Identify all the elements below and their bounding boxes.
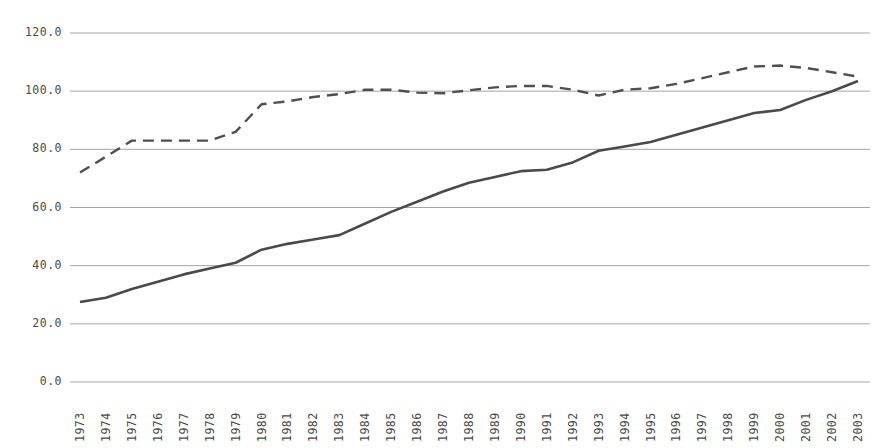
series-line-series-dashed [80, 66, 858, 173]
series-line-series-solid [80, 81, 858, 302]
x-axis-tick-label: 1991 [542, 412, 554, 442]
x-axis-tick-label: 1995 [646, 412, 658, 442]
x-axis-tick-label: 1985 [386, 412, 398, 442]
x-axis-tick-label: 2003 [853, 412, 865, 442]
x-axis-tick-label: 1983 [334, 412, 346, 442]
x-axis-tick-label: 1974 [101, 412, 113, 442]
x-axis-tick-label: 1973 [75, 412, 87, 442]
x-axis-tick-label: 1998 [723, 412, 735, 442]
x-axis-tick-label: 1994 [620, 412, 632, 442]
x-axis-tick-label: 1979 [231, 412, 243, 442]
x-axis-tick-label: 1997 [697, 412, 709, 442]
x-axis-tick-label: 1982 [308, 412, 320, 442]
x-axis-tick-label: 1980 [257, 412, 269, 442]
x-axis-tick-label: 1977 [179, 412, 191, 442]
x-axis-tick-label: 1990 [516, 412, 528, 442]
y-axis-tick-label: 0.0 [0, 376, 62, 388]
y-axis-tick-label: 20.0 [0, 318, 62, 330]
plot-area [0, 0, 880, 448]
x-axis-tick-label: 1981 [282, 412, 294, 442]
y-axis-tick-label: 120.0 [0, 27, 62, 39]
x-axis-tick-label: 1989 [490, 412, 502, 442]
x-axis-tick-label: 1992 [568, 412, 580, 442]
series-group [80, 66, 858, 302]
y-axis-tick-label: 100.0 [0, 85, 62, 97]
x-axis-tick-label: 2000 [775, 412, 787, 442]
x-axis-tick-label: 2002 [827, 412, 839, 442]
x-axis-tick-label: 1996 [671, 412, 683, 442]
x-axis-tick-label: 1975 [127, 412, 139, 442]
x-axis-tick-label: 1987 [438, 412, 450, 442]
x-axis-tick-label: 1976 [153, 412, 165, 442]
line-chart: 0.020.040.060.080.0100.0120.0 1973197419… [0, 0, 880, 448]
y-axis-tick-label: 80.0 [0, 143, 62, 155]
x-axis-tick-label: 1999 [749, 412, 761, 442]
x-axis-tick-label: 1984 [360, 412, 372, 442]
x-axis-tick-label: 1986 [412, 412, 424, 442]
x-axis-tick-label: 2001 [801, 412, 813, 442]
y-axis-tick-label: 60.0 [0, 202, 62, 214]
gridline-group [70, 33, 870, 382]
x-axis-tick-label: 1978 [205, 412, 217, 442]
x-axis-tick-label: 1993 [594, 412, 606, 442]
y-axis-tick-label: 40.0 [0, 260, 62, 272]
x-axis-tick-label: 1988 [464, 412, 476, 442]
